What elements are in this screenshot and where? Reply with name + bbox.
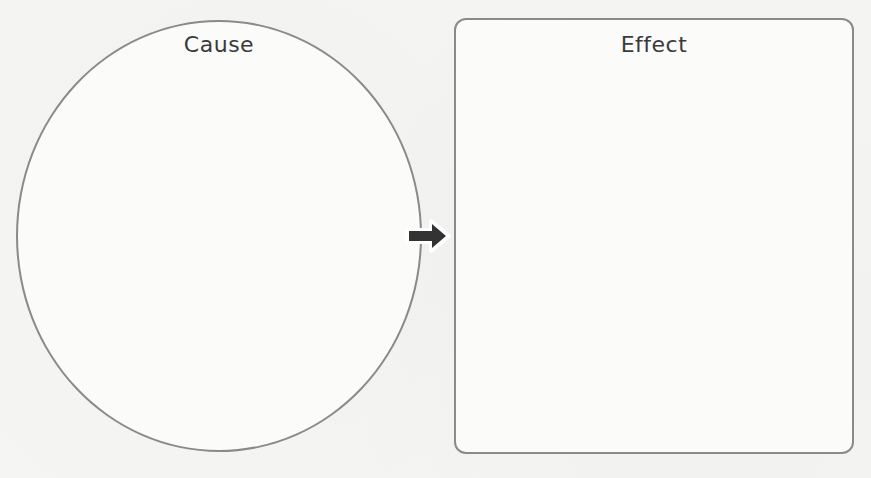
cause-label: Cause [16,32,422,57]
effect-box [454,18,854,454]
arrow-right-icon [405,218,453,254]
effect-label: Effect [454,32,854,57]
cause-oval [16,20,422,452]
